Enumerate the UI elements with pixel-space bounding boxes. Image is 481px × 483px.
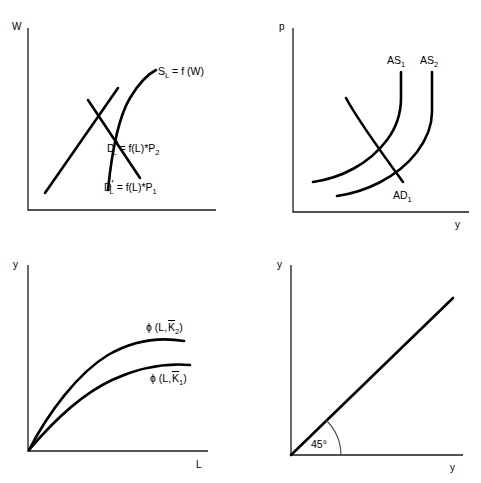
axis-label-y-vertical: y [277, 259, 282, 270]
axes-forty-five [291, 265, 463, 455]
production-function-k2-label: ϕ (L,K2) [146, 321, 183, 336]
labor-demand-1-label: D′L = f(L)*P1 [104, 178, 157, 196]
forty-five-degree-line [291, 298, 453, 455]
labor-supply-curve [108, 70, 156, 190]
labor-supply-label: SL = f (W) [158, 65, 204, 80]
angle-arc [326, 420, 341, 455]
panel-production-function: y L ϕ (L,K2) ϕ (L,K1) [0, 243, 240, 483]
labor-demand-curve-1 [45, 88, 118, 193]
aggregate-demand-1-label: AD1 [393, 189, 412, 204]
k-bar-1: K [172, 372, 179, 384]
panel-as-ad: p y AS1 AS2 AD1 [241, 0, 481, 240]
axes-as-ad [293, 28, 469, 212]
aggregate-supply-curve-1 [313, 72, 401, 182]
panel-labor-market: W SL = f (W) D″L = f(L)*P2 D′L = f(L)*P1 [0, 0, 240, 240]
aggregate-supply-1-label: AS1 [387, 54, 405, 69]
aggregate-supply-curve-2 [337, 72, 432, 196]
production-function-k1-label: ϕ (L,K1) [150, 372, 187, 387]
axis-label-y-horizontal: y [450, 462, 455, 473]
axis-label-y-asad: y [455, 219, 460, 230]
panel-forty-five-degree: y y 45° [241, 243, 481, 483]
production-function-curve-k2 [29, 339, 184, 450]
k-bar-2: K [168, 321, 175, 333]
axis-label-p: p [279, 21, 285, 32]
axis-label-w: W [12, 21, 22, 32]
four-panel-economics-figure: W SL = f (W) D″L = f(L)*P2 D′L = f(L)*P1… [0, 0, 481, 483]
axis-label-y-prod: y [13, 259, 18, 270]
aggregate-supply-2-label: AS2 [420, 54, 438, 69]
axis-label-l-prod: L [196, 459, 202, 470]
angle-label: 45° [311, 438, 327, 450]
labor-demand-2-label: D″L = f(L)*P2 [107, 139, 159, 157]
